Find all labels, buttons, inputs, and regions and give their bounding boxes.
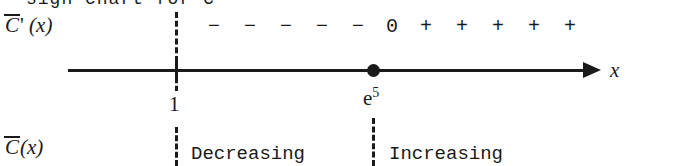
function-row-label: C(x) (4, 135, 43, 160)
sign-zero: 0 (376, 16, 408, 38)
sign-minus-5: − (340, 16, 376, 38)
sign-plus-3: + (480, 16, 516, 38)
sign-plus-5: + (552, 16, 588, 38)
dashed-guide-e5-lower (372, 118, 375, 166)
sign-minus-4: − (304, 16, 340, 38)
sign-minus-1: − (196, 16, 232, 38)
axis-label-e5-exponent: 5 (372, 85, 379, 100)
derivative-prime-mark: ' (20, 13, 24, 37)
derivative-row-label: C' (x) (4, 13, 52, 38)
axis-variable-label: x (610, 58, 619, 83)
number-line-axis (68, 69, 587, 72)
sign-minus-3: − (268, 16, 304, 38)
dashed-guide-one-middle (175, 78, 178, 91)
behavior-label-increasing: Increasing (389, 143, 503, 165)
sign-chart-figure: sign chart for C' C' (x) C(x) − − − − − … (0, 0, 687, 166)
clipped-heading-text: sign chart for C' (26, 0, 227, 9)
derivative-argument: (x) (29, 13, 52, 37)
sign-minus-2: − (232, 16, 268, 38)
dashed-guide-one-upper (175, 12, 178, 62)
derivative-function-letter: C (4, 13, 20, 38)
function-function-letter: C (4, 135, 20, 160)
arrow-right-icon (583, 62, 601, 78)
sign-plus-2: + (444, 16, 480, 38)
axis-label-e5-base: e (363, 86, 372, 110)
axis-label-e5: e5 (363, 86, 379, 111)
axis-label-one: 1 (169, 92, 180, 117)
sign-plus-1: + (408, 16, 444, 38)
filled-dot-at-e5 (367, 64, 380, 77)
sign-row: − − − − − 0 + + + + + (196, 16, 588, 38)
behavior-label-decreasing: Decreasing (191, 143, 305, 165)
sign-plus-4: + (516, 16, 552, 38)
dashed-guide-one-lower (175, 127, 178, 166)
function-argument: (x) (20, 135, 43, 159)
